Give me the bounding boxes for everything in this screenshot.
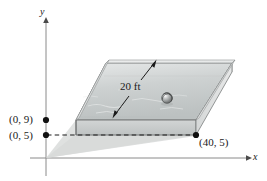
pool-diagram-figure: y x (0, 9) (0, 5) (40, 5) 20 ft: [0, 0, 267, 181]
point-label-0-5: (0, 5): [9, 130, 33, 141]
x-axis-arrowhead: [246, 155, 252, 161]
y-axis-label: y: [40, 7, 44, 17]
pool-body: [76, 60, 235, 135]
pool-front-face: [76, 120, 196, 135]
ball-icon: [161, 93, 173, 106]
y-axis-arrowhead: [43, 17, 49, 23]
x-axis-label: x: [253, 152, 257, 162]
pool-back-rim: [106, 60, 235, 63]
point-label-0-9: (0, 9): [9, 114, 33, 125]
dimension-label-20ft: 20 ft: [120, 81, 140, 92]
point-label-40-5: (40, 5): [199, 137, 228, 148]
point-marker-0-9: [43, 117, 49, 123]
point-marker-0-5: [43, 132, 49, 138]
